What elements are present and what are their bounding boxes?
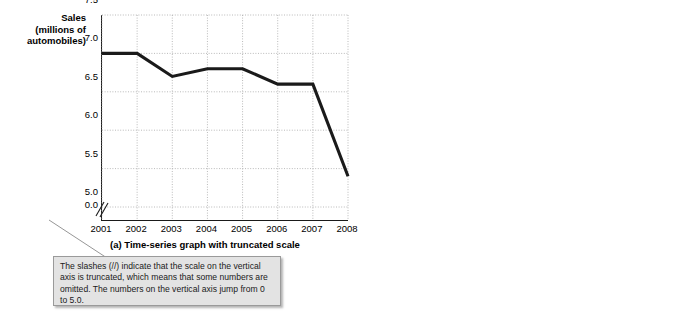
x-tick-label: 2003 (154, 223, 188, 235)
y-tick-label: 6.5 (85, 72, 98, 82)
axis-break-slashes-icon (92, 199, 110, 219)
x-tick-label: 2007 (295, 223, 329, 235)
y-tick-label: 6.0 (85, 110, 98, 120)
caption-a: (a) Time-series graph with truncated sca… (110, 239, 350, 251)
callout-leader-line (45, 218, 115, 260)
data-series-a (102, 15, 348, 220)
plot-area-a (101, 15, 348, 221)
y-tick-label: 7.5 (85, 0, 98, 5)
x-tick-label: 2006 (260, 223, 294, 235)
y-tick-label: 5.5 (85, 149, 98, 159)
callout-note: The slashes (//) indicate that the scale… (53, 256, 281, 306)
callout-note-text: The slashes (//) indicate that the scale… (60, 261, 268, 305)
x-tick-label: 2008 (330, 223, 364, 235)
x-tick-labels-a: 20012002200320042005200620072008 (101, 223, 347, 237)
x-tick-label: 2002 (119, 223, 153, 235)
x-tick-label: 2005 (225, 223, 259, 235)
x-tick-label: 2004 (189, 223, 223, 235)
y-tick-label: 7.0 (85, 33, 98, 43)
y-tick-labels-a: 7.57.06.56.05.55.00.0 (68, 0, 98, 205)
y-tick-label: 5.0 (85, 187, 98, 197)
